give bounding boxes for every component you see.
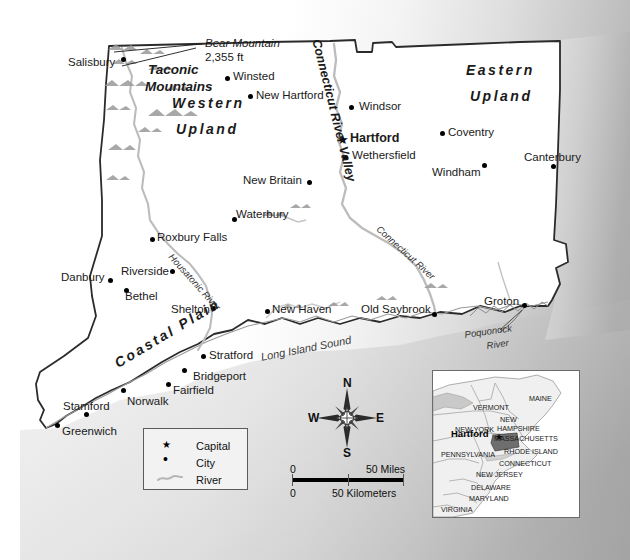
connecticut-map: SalisburyWinstedNew HartfordWindsorCoven… bbox=[0, 0, 630, 560]
city-dot bbox=[432, 312, 437, 317]
city-dot bbox=[482, 163, 487, 168]
compass-north-label: N bbox=[343, 376, 352, 390]
city-dot bbox=[182, 368, 187, 373]
city-label: Salisbury bbox=[68, 57, 115, 69]
city-label: New Hartford bbox=[256, 90, 324, 102]
map-legend: ★ Capital • City River bbox=[143, 428, 248, 490]
city-dot bbox=[248, 94, 253, 99]
city-label: Waterbury bbox=[236, 209, 289, 221]
region-label-western-upland-line1: Western bbox=[172, 96, 244, 110]
city-label: Fairfield bbox=[173, 385, 214, 397]
compass-south-label: S bbox=[343, 446, 351, 460]
capital-label: Hartford bbox=[350, 132, 399, 145]
city-label: Roxbury Falls bbox=[157, 232, 227, 244]
city-label: Groton bbox=[484, 296, 519, 308]
peak-label-bear-mountain: Bear Mountain bbox=[205, 38, 280, 50]
city-label: Windsor bbox=[359, 101, 401, 113]
scale-km-zero: 0 bbox=[290, 487, 296, 499]
city-label: New Britain bbox=[243, 175, 302, 187]
city-dot bbox=[121, 388, 126, 393]
region-label-taconic-mountains-line1: Taconic bbox=[148, 63, 199, 77]
scale-tick-left bbox=[292, 474, 293, 486]
city-dot bbox=[166, 382, 171, 387]
region-label-eastern-upland-line1: Eastern bbox=[466, 63, 535, 77]
region-label-taconic-mountains-line2: Mountains bbox=[145, 80, 213, 94]
city-dot bbox=[265, 309, 270, 314]
city-dot bbox=[225, 76, 230, 81]
inset-state-label: NEW JERSEY bbox=[476, 471, 523, 478]
city-dot bbox=[307, 180, 312, 185]
compass-east-label: E bbox=[376, 411, 384, 425]
city-dot bbox=[522, 303, 527, 308]
city-dot bbox=[121, 57, 126, 62]
legend-river-icon bbox=[157, 473, 183, 483]
city-dot bbox=[108, 278, 113, 283]
inset-state-label: MAINE bbox=[529, 395, 552, 402]
scale-bar: 0 50 Miles 0 50 Kilometers bbox=[290, 462, 410, 502]
scale-km-max: 50 Kilometers bbox=[332, 487, 396, 499]
region-label-western-upland-line2: Upland bbox=[176, 122, 238, 136]
city-label: Riverside bbox=[121, 266, 169, 278]
city-dot bbox=[55, 423, 60, 428]
inset-state-label: NEW bbox=[500, 416, 517, 423]
city-label: Old Saybrook bbox=[361, 304, 431, 316]
scale-tick-right bbox=[403, 474, 404, 486]
city-label: Windham bbox=[432, 167, 481, 179]
legend-star-icon: ★ bbox=[162, 439, 171, 450]
inset-state-label: VIRGINIA bbox=[441, 506, 473, 513]
inset-state-label: PENNSYLVANIA bbox=[441, 451, 495, 458]
region-label-eastern-upland-line2: Upland bbox=[470, 89, 532, 103]
city-label: Bethel bbox=[125, 291, 158, 303]
city-label: Bridgeport bbox=[193, 371, 246, 383]
legend-dot-icon: • bbox=[163, 456, 168, 462]
city-label: Wethersfield bbox=[352, 150, 416, 162]
inset-state-label: VERMONT bbox=[473, 404, 509, 411]
city-dot bbox=[349, 105, 354, 110]
legend-label-city: City bbox=[196, 457, 215, 469]
city-dot bbox=[150, 237, 155, 242]
city-label: Coventry bbox=[448, 127, 494, 139]
city-label: Stratford bbox=[209, 350, 253, 362]
inset-state-label: DELAWARE bbox=[471, 484, 511, 491]
city-dot bbox=[201, 354, 206, 359]
legend-label-river: River bbox=[196, 474, 222, 486]
inset-state-label: CONNECTICUT bbox=[499, 460, 551, 467]
legend-label-capital: Capital bbox=[196, 440, 230, 452]
inset-state-label: MASSACHUSETTS bbox=[494, 435, 558, 442]
city-label: Danbury bbox=[61, 272, 104, 284]
inset-state-label: HAMPSHIRE bbox=[497, 425, 540, 432]
city-label: Greenwich bbox=[62, 426, 117, 438]
locator-inset-map: ★ Hartford MAINEVERMONTNEWHAMPSHIRENEW Y… bbox=[432, 370, 580, 518]
city-label: Norwalk bbox=[127, 396, 169, 408]
inset-state-label: RHODE ISLAND bbox=[504, 448, 558, 455]
compass-west-label: W bbox=[308, 411, 319, 425]
inset-state-label: NEW YORK bbox=[455, 426, 494, 433]
city-dot bbox=[551, 164, 556, 169]
inset-state-label: MARYLAND bbox=[469, 495, 509, 502]
city-label: Winsted bbox=[233, 71, 275, 83]
city-dot bbox=[440, 131, 445, 136]
scale-miles-max: 50 Miles bbox=[366, 463, 405, 475]
city-label: Stamford bbox=[63, 401, 110, 413]
city-dot bbox=[170, 269, 175, 274]
peak-elevation-bear-mountain: 2,355 ft bbox=[205, 52, 243, 64]
city-label: New Haven bbox=[272, 304, 331, 316]
city-label: Canterbury bbox=[524, 152, 581, 164]
compass-rose: N S W E bbox=[312, 378, 384, 458]
scale-tick-mid bbox=[348, 474, 349, 486]
